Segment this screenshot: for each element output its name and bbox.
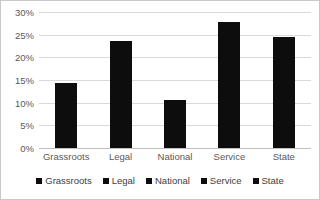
x-axis-tick-label: State <box>273 151 295 162</box>
bar-chart: 0%5%10%15%20%25%30% GrassrootsLegalNatio… <box>0 0 320 200</box>
y-axis-tick-label: 30% <box>3 7 34 18</box>
x-axis-tick-label: Grassroots <box>43 151 89 162</box>
chart-legend: GrassrootsLegalNationalServiceState <box>1 175 319 186</box>
y-axis: 0%5%10%15%20%25%30% <box>1 12 320 148</box>
legend-label: Service <box>210 175 242 186</box>
legend-item[interactable]: Grassroots <box>36 175 91 186</box>
legend-item[interactable]: Legal <box>103 175 135 186</box>
y-axis-tick-label: 5% <box>3 120 34 131</box>
legend-item[interactable]: State <box>253 175 284 186</box>
x-axis: GrassrootsLegalNationalServiceState <box>39 151 311 165</box>
x-axis-tick-label: National <box>158 151 193 162</box>
y-axis-tick-label: 15% <box>3 75 34 86</box>
y-axis-tick-label: 10% <box>3 97 34 108</box>
x-axis-tick-label: Service <box>214 151 246 162</box>
legend-swatch-icon <box>253 178 259 184</box>
legend-label: State <box>262 175 284 186</box>
legend-swatch-icon <box>103 178 109 184</box>
y-axis-tick-label: 25% <box>3 29 34 40</box>
gridline <box>39 148 311 149</box>
legend-swatch-icon <box>146 178 152 184</box>
y-axis-tick-label: 0% <box>3 143 34 154</box>
y-axis-tick-label: 20% <box>3 52 34 63</box>
legend-item[interactable]: Service <box>201 175 242 186</box>
legend-label: Legal <box>112 175 135 186</box>
legend-label: National <box>155 175 190 186</box>
legend-swatch-icon <box>201 178 207 184</box>
legend-label: Grassroots <box>45 175 91 186</box>
legend-swatch-icon <box>36 178 42 184</box>
legend-item[interactable]: National <box>146 175 190 186</box>
x-axis-tick-label: Legal <box>109 151 132 162</box>
